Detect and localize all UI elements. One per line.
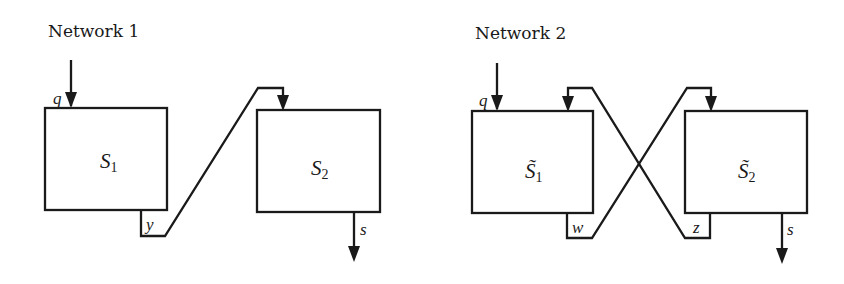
output-label-s: s	[787, 220, 794, 239]
arrowhead-icon	[776, 248, 788, 264]
internal-label-w: w	[572, 218, 584, 237]
network-diagrams: Network 1 q S1 y S2 s Network 2 q S̃1 S̃…	[0, 0, 844, 284]
network-2: Network 2 q S̃1 S̃2 w z s	[472, 23, 807, 264]
internal-label-y: y	[144, 215, 154, 234]
network-1-title: Network 1	[48, 21, 139, 41]
internal-label-z: z	[692, 218, 700, 237]
arrowhead-icon	[705, 96, 717, 112]
arrowhead-icon	[348, 246, 360, 262]
arrowhead-icon	[491, 95, 503, 111]
output-label-s: s	[360, 220, 367, 239]
input-label-q: q	[53, 89, 62, 108]
input-label-q: q	[479, 91, 488, 110]
arrowhead-icon	[277, 95, 289, 111]
arrowhead-icon	[562, 96, 574, 112]
arrowhead-icon	[65, 92, 77, 108]
network-1: Network 1 q S1 y S2 s	[45, 21, 380, 262]
network-2-title: Network 2	[475, 23, 566, 43]
